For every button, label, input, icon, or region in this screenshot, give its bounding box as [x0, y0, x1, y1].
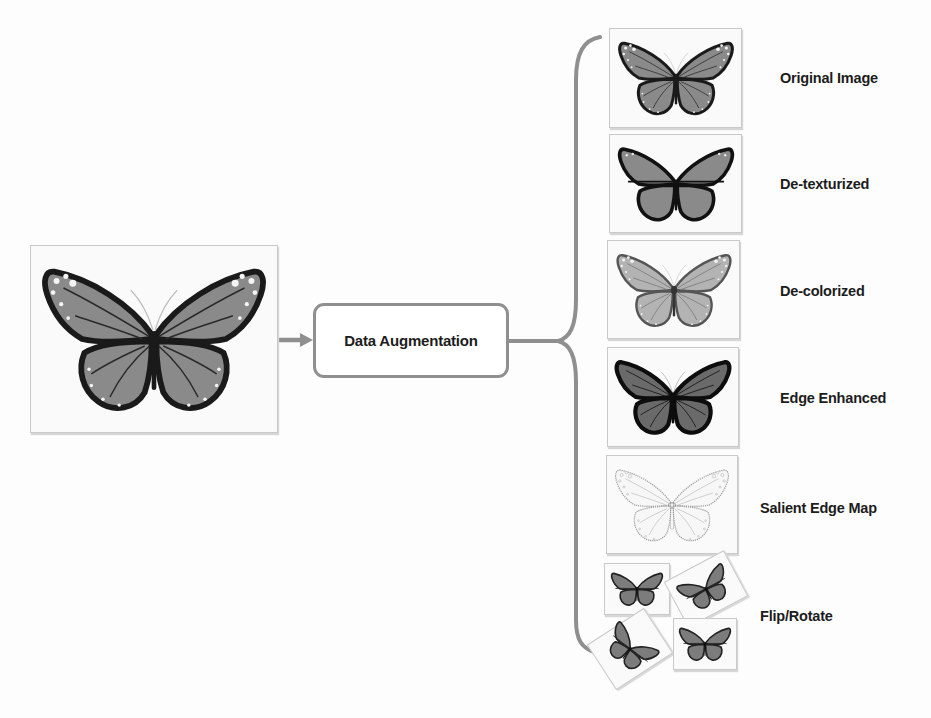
label-decolorized: De-colorized: [780, 283, 865, 299]
butterfly-edge-enhanced-icon: [613, 354, 733, 440]
data-augmentation-label: Data Augmentation: [344, 332, 478, 349]
flip-rotate-thumb-4: [673, 618, 737, 670]
butterfly-input-icon: [38, 256, 270, 422]
butterfly-salient-edge-icon: [612, 462, 732, 548]
input-image: [30, 245, 278, 433]
butterfly-small-icon: [610, 569, 664, 609]
butterfly-small-icon: [596, 617, 663, 681]
flip-rotate-thumb-2: [664, 550, 748, 628]
butterfly-small-icon: [673, 559, 739, 620]
output-original-image: [609, 28, 742, 128]
label-flip-rotate: Flip/Rotate: [760, 608, 833, 624]
output-salient-edge-map-image: [606, 455, 738, 554]
output-edge-enhanced-image: [607, 347, 739, 447]
output-decolorized-image: [607, 240, 740, 339]
label-edge-enhanced: Edge Enhanced: [780, 390, 886, 406]
output-detexturized-image: [609, 134, 742, 233]
label-original-image: Original Image: [780, 70, 878, 86]
label-salient-edge-map: Salient Edge Map: [760, 500, 877, 516]
data-augmentation-box: Data Augmentation: [313, 303, 509, 378]
butterfly-decolorized-icon: [614, 247, 734, 333]
butterfly-detexturized-icon: [616, 141, 736, 227]
label-detexturized: De-texturized: [780, 176, 869, 192]
butterfly-original-icon: [616, 35, 736, 121]
flip-rotate-thumb-3: [587, 608, 673, 690]
flip-rotate-thumb-1: [604, 563, 670, 615]
butterfly-small-icon: [678, 624, 732, 664]
